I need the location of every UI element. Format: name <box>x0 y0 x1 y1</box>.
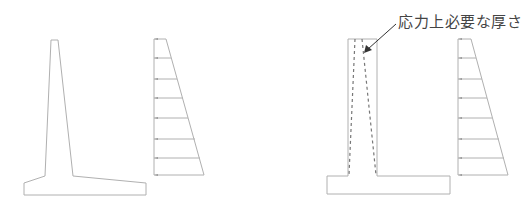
required-thickness-dashed-lines <box>349 39 376 175</box>
diagram-canvas <box>0 0 524 209</box>
left-earth-pressure-diagram <box>154 39 204 175</box>
right-pressure-arrow-heads <box>458 38 462 176</box>
left-retaining-wall <box>24 40 146 195</box>
right-earth-pressure-diagram <box>458 39 508 175</box>
left-pressure-arrow-heads <box>154 38 158 176</box>
required-thickness-label: 応力上必要な厚さ <box>398 10 522 31</box>
right-retaining-wall <box>327 39 450 194</box>
